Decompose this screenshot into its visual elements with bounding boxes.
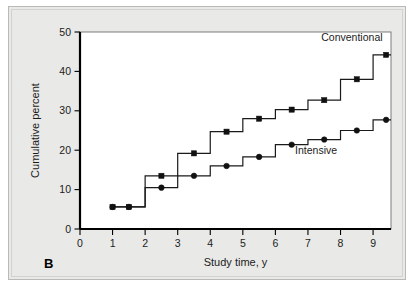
y-tick-label: 50 <box>59 26 71 38</box>
x-tick-label: 2 <box>142 237 148 249</box>
data-point-intensive <box>159 185 165 191</box>
x-tick-label: 1 <box>110 237 116 249</box>
data-point-intensive <box>289 142 295 148</box>
y-tick-label: 10 <box>59 183 71 195</box>
x-tick-label: 3 <box>175 237 181 249</box>
series-label-intensive: Intensive <box>295 144 337 156</box>
y-tick-label: 30 <box>59 104 71 116</box>
data-point-conventional <box>289 107 294 112</box>
panel-label: B <box>44 256 53 271</box>
y-tick-label: 0 <box>65 223 71 235</box>
series-label-conventional: Conventional <box>321 31 382 43</box>
data-point-conventional <box>159 173 164 178</box>
data-point-conventional <box>322 98 327 103</box>
y-axis-title: Cumulative percent <box>29 83 41 178</box>
data-point-intensive <box>110 204 116 210</box>
data-point-intensive <box>256 154 262 160</box>
cumulative-percent-step-chart: 010203040500123456789Study time, yCumula… <box>9 7 407 281</box>
x-tick-label: 4 <box>207 237 213 249</box>
x-axis-title: Study time, y <box>204 256 268 268</box>
x-tick-label: 9 <box>370 237 376 249</box>
data-point-conventional <box>191 151 196 156</box>
data-point-conventional <box>257 116 262 121</box>
y-tick-label: 20 <box>59 144 71 156</box>
x-tick-label: 7 <box>305 237 311 249</box>
x-tick-label: 5 <box>240 237 246 249</box>
data-point-conventional <box>224 129 229 134</box>
x-tick-label: 8 <box>338 237 344 249</box>
data-point-intensive <box>321 137 327 143</box>
figure-panel: 010203040500123456789Study time, yCumula… <box>8 6 406 280</box>
x-tick-label: 6 <box>272 237 278 249</box>
data-point-intensive <box>354 128 360 134</box>
data-point-conventional <box>384 52 389 57</box>
data-point-intensive <box>191 173 197 179</box>
data-point-intensive <box>224 163 230 169</box>
x-tick-label: 0 <box>77 237 83 249</box>
data-point-intensive <box>383 117 389 123</box>
data-point-intensive <box>126 204 132 210</box>
data-point-conventional <box>354 77 359 82</box>
y-tick-label: 40 <box>59 65 71 77</box>
